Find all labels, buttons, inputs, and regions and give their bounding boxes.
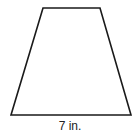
bottom-base-label: 7 in. xyxy=(59,119,82,132)
trapezoid-shape xyxy=(11,8,131,115)
diagram-canvas: 7 in. xyxy=(0,0,139,132)
